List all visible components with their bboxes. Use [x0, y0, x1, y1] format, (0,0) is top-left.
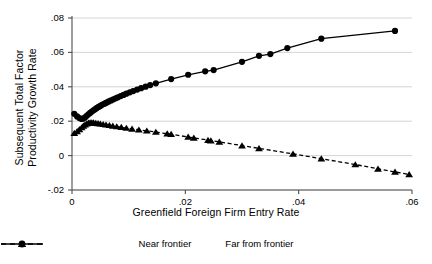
x-tick-label: 0: [57, 196, 87, 207]
plot-area: [0, 0, 432, 264]
triangle-marker-icon: [0, 238, 44, 250]
data-point: [185, 72, 191, 78]
y-tick-label: .06: [34, 46, 64, 57]
data-point: [318, 36, 324, 42]
chart-legend: Near frontierFar from frontier: [0, 238, 432, 249]
data-point: [135, 126, 143, 132]
y-tick-label: .02: [34, 115, 64, 126]
y-tick-label: -.02: [34, 184, 64, 195]
data-point: [392, 28, 398, 34]
data-point: [374, 165, 382, 171]
data-point: [238, 142, 246, 148]
data-point: [284, 45, 290, 51]
y-tick-label: .08: [34, 12, 64, 23]
x-tick-label: .06: [397, 196, 427, 207]
data-point: [317, 155, 325, 161]
y-tick-label: .04: [34, 81, 64, 92]
x-tick-label: .02: [170, 196, 200, 207]
legend-item-far-from-frontier[interactable]: Far from frontier: [225, 238, 293, 249]
y-tick-label: 0: [34, 150, 64, 161]
legend-item-near-frontier[interactable]: Near frontier: [139, 238, 192, 249]
data-point: [211, 67, 217, 73]
legend-label: Far from frontier: [225, 238, 293, 249]
data-point: [256, 53, 262, 59]
data-point: [289, 150, 297, 156]
data-point: [147, 82, 153, 88]
data-point: [202, 68, 208, 74]
x-tick-label: .04: [284, 196, 314, 207]
data-point: [153, 80, 159, 86]
data-point: [267, 51, 273, 57]
data-point: [239, 59, 245, 65]
series-line-0: [74, 31, 395, 119]
legend-label: Near frontier: [139, 238, 192, 249]
data-point: [128, 126, 136, 132]
data-point: [168, 76, 174, 82]
chart-container: Subsequent Total Factor Productivity Gro…: [0, 0, 432, 264]
